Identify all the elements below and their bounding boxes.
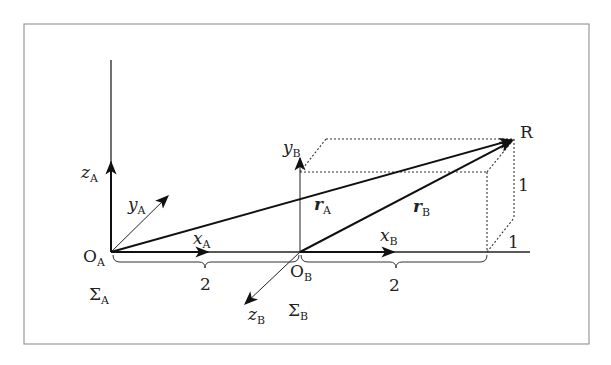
label-box-depth: 1	[508, 232, 519, 252]
label-box-height: 1	[518, 175, 529, 195]
label-dist-2-a: 2	[200, 274, 211, 294]
label-dist-2-b: 2	[389, 275, 400, 295]
coordinate-frames-diagram: OA ΣA zA yA xA 2 OB ΣB yB xB zB 2 rA rB …	[0, 0, 611, 365]
label-point-r: R	[520, 122, 534, 142]
